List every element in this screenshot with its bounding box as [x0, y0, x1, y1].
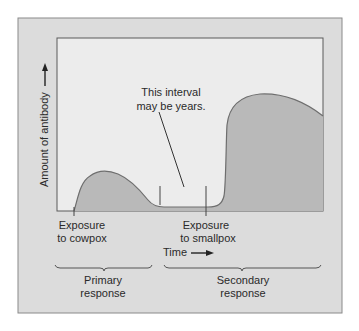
- event-smallpox-line-2: to smallpox: [180, 232, 236, 244]
- phase-secondary-line-2: response: [220, 287, 265, 299]
- annotation-line-2: may be years.: [136, 100, 205, 112]
- phase-secondary-line-1: Secondary: [217, 274, 270, 286]
- x-axis-label: Time: [163, 246, 187, 258]
- phase-primary-line-2: response: [80, 287, 125, 299]
- y-axis-label: Amount of antibody: [38, 92, 50, 187]
- event-smallpox-line-1: Exposure: [183, 219, 229, 231]
- phase-primary-line-1: Primary: [84, 274, 122, 286]
- antibody-response-diagram: This interval may be years. Amount of an…: [0, 0, 359, 331]
- event-cowpox-line-2: to cowpox: [57, 232, 107, 244]
- annotation-line-1: This interval: [141, 86, 200, 98]
- event-cowpox-line-1: Exposure: [59, 219, 105, 231]
